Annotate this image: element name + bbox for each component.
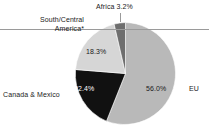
slice-label-eu: EU — [189, 85, 199, 94]
slice-value-eu: 56.0% — [146, 85, 166, 93]
slice-value-canada-mexico: 22.4% — [74, 85, 94, 93]
pie-chart: Africa 3.2% South/Central America* Canad… — [0, 0, 209, 140]
slice-label-africa: Africa 3.2% — [96, 3, 133, 12]
slice-label-south-central-america: South/Central America* — [14, 16, 84, 33]
slice-value-south-central-america: 18.3% — [86, 48, 106, 56]
slice-label-canada-mexico: Canada & Mexico — [3, 91, 60, 100]
leader-line-africa — [120, 13, 121, 22]
